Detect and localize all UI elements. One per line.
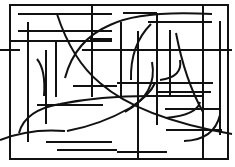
curved-line <box>37 59 44 96</box>
curved-line <box>176 33 203 112</box>
line-drawing-figure <box>0 0 235 167</box>
line-drawing-canvas <box>0 0 235 167</box>
curved-line <box>67 83 155 131</box>
curved-lines <box>0 13 232 141</box>
curved-line <box>131 24 151 80</box>
straight-lines <box>0 5 232 159</box>
